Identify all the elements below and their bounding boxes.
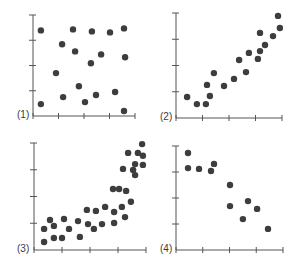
- data-point: [262, 42, 268, 48]
- data-point: [246, 50, 252, 56]
- data-point: [236, 57, 242, 63]
- data-point: [122, 54, 128, 60]
- data-point: [41, 226, 47, 232]
- data-point: [53, 70, 59, 76]
- data-point: [211, 161, 217, 167]
- data-point: [51, 235, 57, 241]
- data-point: [243, 69, 249, 75]
- data-point: [231, 76, 237, 82]
- data-point: [59, 235, 65, 241]
- data-point: [99, 221, 105, 227]
- data-point: [139, 141, 145, 147]
- scatter-panel-4: [172, 146, 283, 253]
- data-point: [61, 216, 67, 222]
- data-point: [254, 206, 260, 212]
- data-point: [125, 150, 131, 156]
- scatter-panel-2: [172, 13, 283, 121]
- data-point: [128, 199, 134, 205]
- data-point: [111, 220, 117, 226]
- data-point: [275, 13, 281, 19]
- data-point: [277, 25, 283, 31]
- data-point: [70, 26, 76, 32]
- data-point: [75, 218, 81, 224]
- data-point: [203, 101, 209, 107]
- data-point: [132, 161, 138, 167]
- panel-3-label: (3): [17, 244, 29, 254]
- data-point: [51, 223, 57, 229]
- data-point: [89, 28, 95, 34]
- data-point: [102, 204, 108, 210]
- scatter-plot-grid: (1) (2) (3) (4): [0, 0, 301, 270]
- data-point: [211, 70, 217, 76]
- data-point: [121, 108, 127, 114]
- data-point: [255, 56, 261, 62]
- scatter-panel-1: [29, 15, 135, 119]
- data-point: [84, 207, 90, 213]
- data-point: [76, 83, 82, 89]
- data-point: [41, 239, 47, 245]
- data-point: [227, 203, 233, 209]
- data-point: [194, 101, 200, 107]
- data-point: [185, 165, 191, 171]
- data-point: [140, 162, 146, 168]
- data-point: [116, 186, 122, 192]
- data-point: [207, 93, 213, 99]
- data-point: [227, 182, 233, 188]
- data-point: [120, 166, 126, 172]
- data-point: [122, 214, 128, 220]
- data-point: [185, 150, 191, 156]
- data-point: [257, 30, 263, 36]
- data-point: [119, 204, 125, 210]
- data-point: [98, 51, 104, 57]
- data-point: [132, 172, 138, 178]
- scatter-panel-3: [30, 141, 146, 253]
- data-point: [121, 25, 127, 31]
- data-point: [240, 216, 246, 222]
- data-point: [47, 217, 53, 223]
- data-point: [82, 99, 88, 105]
- data-point: [196, 166, 202, 172]
- data-point: [204, 82, 210, 88]
- data-point: [112, 89, 118, 95]
- data-point: [265, 226, 271, 232]
- data-point: [88, 60, 94, 66]
- data-point: [66, 226, 72, 232]
- data-point: [107, 29, 113, 35]
- data-point: [72, 48, 78, 54]
- data-point: [257, 48, 263, 54]
- data-point: [208, 168, 214, 174]
- data-point: [123, 188, 129, 194]
- panel-4-label: (4): [160, 244, 172, 254]
- data-point: [245, 198, 251, 204]
- panel-1-label: (1): [17, 110, 29, 120]
- data-point: [270, 33, 276, 39]
- data-point: [93, 208, 99, 214]
- data-point: [221, 83, 227, 89]
- data-point: [85, 221, 91, 227]
- data-point: [59, 41, 65, 47]
- data-point: [110, 186, 116, 192]
- data-point: [111, 209, 117, 215]
- data-point: [140, 153, 146, 159]
- scatter-plots-canvas: [0, 0, 301, 270]
- data-point: [91, 226, 97, 232]
- panel-2-label: (2): [160, 112, 172, 122]
- data-point: [60, 94, 66, 100]
- data-point: [93, 92, 99, 98]
- data-point: [38, 101, 44, 107]
- data-point: [77, 234, 83, 240]
- data-point: [184, 94, 190, 100]
- data-point: [38, 27, 44, 33]
